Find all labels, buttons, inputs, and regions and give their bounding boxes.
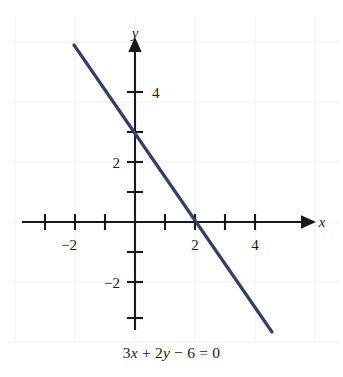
y-axis-label: y [130, 25, 139, 41]
caption-equals-operator: = [195, 344, 212, 361]
caption-variable-x: x [131, 344, 138, 361]
y-tick-label-neg2: −2 [104, 275, 120, 291]
grid-lines [8, 16, 338, 342]
caption-coefficient-a: 3 [123, 344, 131, 361]
x-tick-label-4: 4 [251, 237, 259, 253]
x-axis-label: x [318, 214, 326, 230]
caption-plus-operator: + [138, 344, 155, 361]
graph-figure: −2 2 4 4 2 −2 x y 3x + 2y − 6 = 0 [0, 0, 343, 377]
y-tick-label-2: 2 [113, 155, 121, 171]
figure-caption: 3x + 2y − 6 = 0 [0, 344, 343, 362]
caption-variable-y: y [163, 344, 170, 361]
caption-minus-operator: − [170, 344, 187, 361]
caption-constant: 6 [187, 344, 195, 361]
x-tick-label-neg2: −2 [61, 237, 77, 253]
caption-right-hand-side: 0 [212, 344, 220, 361]
coordinate-plane: −2 2 4 4 2 −2 x y [0, 0, 343, 377]
x-tick-label-2: 2 [191, 237, 199, 253]
y-tick-label-4: 4 [152, 85, 160, 101]
caption-coefficient-b: 2 [155, 344, 163, 361]
